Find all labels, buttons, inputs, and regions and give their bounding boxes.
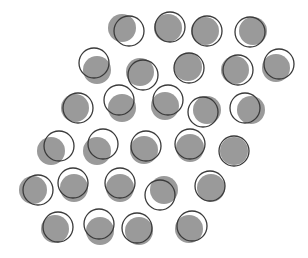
gray-disc <box>176 134 204 162</box>
circle-pair <box>230 93 265 124</box>
gray-disc <box>151 92 179 120</box>
circle-pair <box>151 85 183 120</box>
gray-disc <box>237 96 265 124</box>
circle-pair <box>175 129 205 162</box>
gray-disc <box>86 217 114 245</box>
gray-disc <box>220 137 248 165</box>
circle-pairs-group <box>19 12 294 245</box>
circle-pair <box>105 168 135 202</box>
offset-circles-figure <box>0 0 308 258</box>
gray-disc <box>193 96 221 124</box>
circle-pair <box>61 93 93 123</box>
circle-pair <box>41 212 73 243</box>
circle-pair <box>79 48 111 84</box>
circle-pair <box>195 171 225 202</box>
circle-pair <box>175 211 207 243</box>
circle-pair <box>219 136 249 166</box>
gray-disc <box>221 56 249 84</box>
circle-pair <box>104 85 136 122</box>
circle-pair <box>108 14 144 46</box>
circle-pair <box>83 129 118 165</box>
gray-disc <box>83 137 111 165</box>
circle-pair <box>145 176 178 210</box>
circle-pair <box>126 58 158 90</box>
circle-pair <box>19 175 53 205</box>
circle-pair <box>130 131 161 164</box>
circle-pair <box>84 209 114 245</box>
circle-pair <box>188 96 221 127</box>
circle-pair <box>174 53 204 83</box>
circle-pair <box>221 55 253 85</box>
circle-pair <box>191 16 222 46</box>
figure-canvas <box>0 0 308 258</box>
circle-pair <box>37 131 74 165</box>
circle-pair <box>235 17 267 47</box>
circle-pair <box>58 168 88 202</box>
circle-pair <box>122 213 153 245</box>
gray-disc <box>130 136 158 164</box>
circle-pair <box>154 12 185 42</box>
gray-disc <box>61 94 89 122</box>
circle-pair <box>262 49 294 82</box>
